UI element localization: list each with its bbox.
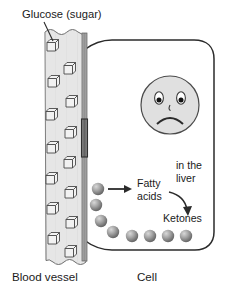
fatty-acid-sphere [126, 230, 138, 242]
vessel-wall-gap [82, 119, 88, 157]
biology-diagram: Glucose (sugar) Fatty acids in the liver… [0, 0, 232, 292]
glucose-cube [64, 63, 76, 75]
fatty-acid-sphere [107, 226, 119, 238]
glucose-cube [66, 217, 78, 229]
fatty-acids-arrow [108, 185, 132, 193]
glucose-cube [65, 127, 77, 139]
glucose-cube [47, 203, 59, 215]
pupil-left [157, 98, 162, 103]
glucose-label: Glucose (sugar) [22, 8, 102, 20]
glucose-cube [66, 96, 78, 108]
in-the-liver-label-line1: in the [176, 159, 202, 171]
cell-label: Cell [137, 270, 157, 283]
fatty-acids-label-line2: acids [137, 190, 162, 202]
ketones-label: Ketones [163, 212, 202, 224]
glucose-cube [48, 76, 60, 88]
pupil-right [179, 98, 184, 103]
sad-face [141, 76, 199, 134]
fatty-acid-sphere [162, 230, 174, 242]
fatty-acid-sphere [90, 199, 102, 211]
glucose-cube [47, 40, 59, 52]
glucose-cube [64, 157, 76, 169]
fatty-acid-sphere [92, 183, 104, 195]
glucose-cube [47, 142, 59, 154]
glucose-cube [48, 233, 60, 245]
glucose-cube [46, 109, 58, 121]
diagram-canvas: Glucose (sugar) Fatty acids in the liver… [0, 0, 232, 292]
glucose-cube [65, 187, 77, 199]
fatty-acid-sphere [144, 230, 156, 242]
fatty-acids-label-line1: Fatty [137, 177, 161, 189]
glucose-cube [65, 246, 77, 258]
blood-vessel [45, 28, 88, 268]
glucose-cube [46, 173, 58, 185]
blood-vessel-label: Blood vessel [12, 270, 78, 283]
in-the-liver-label-line2: liver [176, 172, 196, 184]
fatty-acid-sphere [180, 230, 192, 242]
fatty-acid-sphere [95, 215, 107, 227]
